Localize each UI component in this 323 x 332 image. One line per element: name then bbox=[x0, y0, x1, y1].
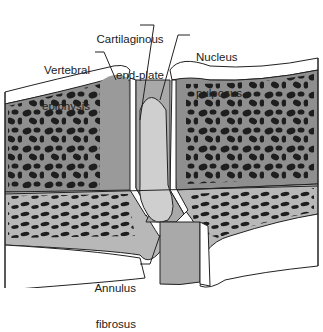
label-line: Vertebral bbox=[20, 64, 90, 76]
label-line: epiphysis bbox=[20, 100, 90, 112]
label-vertebral-epiphysis: Vertebral epiphysis bbox=[20, 40, 90, 136]
label-line: end-plate bbox=[82, 69, 178, 81]
label-line: Nucleus bbox=[196, 51, 266, 63]
label-cartilaginous-end-plate: Cartilaginous end-plate bbox=[82, 9, 178, 105]
label-annulus-fibrosus: Annulus fibrosus bbox=[66, 258, 136, 332]
label-line: Annulus bbox=[66, 282, 136, 294]
label-line: Cartilaginous bbox=[82, 33, 178, 45]
label-line: pulposus bbox=[196, 87, 266, 99]
label-nucleus-pulposus: Nucleus pulposus bbox=[196, 27, 266, 123]
label-line: fibrosus bbox=[66, 318, 136, 330]
